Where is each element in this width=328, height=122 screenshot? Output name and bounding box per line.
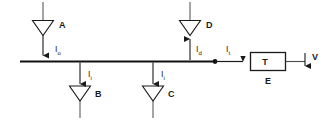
current-label-ii-b: Ii (88, 69, 92, 81)
output-segment (213, 59, 243, 64)
node-label-a: A (59, 20, 66, 30)
triangle-a-symbol (33, 21, 54, 36)
triangle-d-symbol (180, 21, 201, 36)
circuit-diagram: A Io Ii B Ii C D Id (0, 0, 328, 122)
node-label-e: E (265, 76, 271, 86)
node-label-v: V (312, 52, 318, 62)
current-label-ii-c: Ii (161, 69, 165, 81)
box-t-label: T (262, 57, 268, 67)
current-ii-b-subscript: i (90, 75, 91, 81)
voltage-output (286, 53, 306, 66)
triangle-b-symbol (70, 86, 91, 101)
current-label-io: Io (55, 44, 61, 56)
node-label-d: D (206, 20, 213, 30)
terminal-box-t: T (251, 53, 286, 71)
branch-a (33, 2, 54, 56)
current-io-subscript: o (57, 50, 61, 56)
current-it-subscript: t (228, 50, 230, 56)
node-label-b: B (95, 89, 102, 99)
triangle-c-symbol (143, 86, 164, 101)
box-t-outline (251, 53, 286, 71)
current-ii-c-subscript: i (163, 75, 164, 81)
current-label-it: It (226, 44, 230, 56)
current-id-subscript: d (198, 50, 201, 56)
diagram-canvas: A Io Ii B Ii C D Id (0, 0, 328, 122)
node-label-c: C (168, 89, 175, 99)
current-label-id: Id (196, 44, 202, 56)
